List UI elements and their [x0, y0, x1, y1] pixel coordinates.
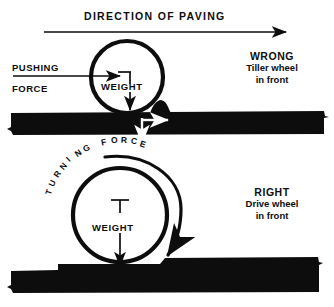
right-detail-line1: Drive wheel — [222, 198, 322, 209]
wrong-verdict: WRONG — [222, 50, 322, 62]
top-pavement-mat — [7, 111, 329, 135]
turning-force-glyph: R — [121, 135, 128, 145]
turning-force-glyph: C — [130, 136, 138, 147]
right-callout: RIGHT Drive wheel in front — [222, 186, 322, 221]
pushing-force-label-line2: FORCE — [12, 83, 48, 94]
turning-force-glyph: O — [111, 135, 119, 146]
paving-roller-diagram: DIRECTION OF PAVING PUSHING FORCE WEIGHT… — [0, 0, 334, 307]
wrong-detail-line2: in front — [222, 74, 322, 85]
bottom-weight-label: WEIGHT — [92, 222, 134, 233]
top-weight-label: WEIGHT — [101, 81, 143, 92]
diagram-artwork — [0, 0, 334, 307]
wrong-callout: WRONG Tiller wheel in front — [222, 50, 322, 85]
bottom-pavement-mat — [7, 257, 323, 293]
page-title: DIRECTION OF PAVING — [84, 10, 226, 22]
pushing-force-label-line1: PUSHING — [12, 62, 59, 73]
right-detail-line2: in front — [222, 210, 322, 221]
wrong-detail-line1: Tiller wheel — [222, 62, 322, 73]
right-verdict: RIGHT — [222, 186, 322, 198]
top-wheel — [91, 41, 163, 113]
